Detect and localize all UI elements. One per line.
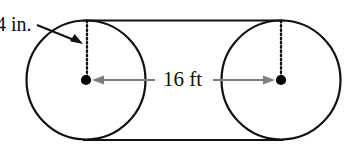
leader-arrowhead xyxy=(70,34,83,44)
leader-arrow-shaft xyxy=(37,25,74,40)
radius-leader-arrow xyxy=(37,25,83,44)
dimension-arrowhead-right xyxy=(263,75,275,84)
left-center-dot xyxy=(81,75,91,85)
radius-label: 4 in. xyxy=(0,14,32,34)
distance-label: 16 ft xyxy=(163,69,202,90)
figure-container: 4 in. 16 ft xyxy=(0,0,346,149)
dimension-arrowhead-left xyxy=(92,75,104,84)
right-center-dot xyxy=(276,75,286,85)
